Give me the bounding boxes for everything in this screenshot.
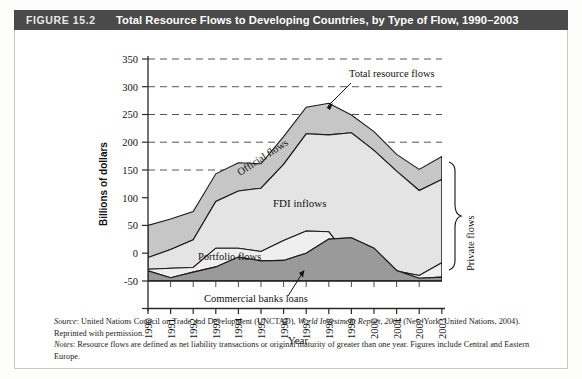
y-axis-title: Billions of dollars: [98, 142, 109, 226]
annotation-commercial-banks-loans: Commercial banks loans: [204, 293, 308, 304]
stacked-areas: [148, 103, 442, 281]
source-line: Source: United Nations Council on Trade …: [54, 316, 534, 339]
x-axis-ticks: [148, 309, 442, 315]
figure-header-bar: FIGURE 15.2 Total Resource Flows to Deve…: [14, 10, 568, 30]
notes-line: Notes: Resource flows are defined as net…: [54, 339, 534, 362]
y-tick-label: 350: [122, 56, 138, 65]
annotation-private-flows: Private flows: [465, 215, 476, 271]
y-tick-label: 100: [122, 193, 138, 204]
y-tick-label: -50: [124, 276, 138, 287]
figure-number: FIGURE 15.2: [14, 14, 100, 26]
y-tick-label: 250: [122, 109, 138, 120]
annotation-fdi-inflows: FDI inflows: [273, 197, 326, 209]
figure-container: FIGURE 15.2 Total Resource Flows to Deve…: [0, 0, 582, 379]
annotation-portfolio-flows: Portfolio flows: [198, 251, 261, 262]
y-axis-tick-labels: 350 300 250 200 150 100 50 0 -50: [122, 56, 138, 287]
annotation-total-resource-flows: Total resource flows: [349, 68, 435, 79]
private-flows-brace: [449, 162, 461, 270]
source-label: Source: [54, 317, 77, 326]
figure-title: Total Resource Flows to Developing Count…: [100, 14, 519, 26]
y-tick-label: 50: [128, 220, 139, 231]
notes-text: : Resource flows are defined as net liab…: [54, 340, 529, 361]
figure-notes: Source: United Nations Council on Trade …: [54, 316, 534, 362]
notes-label: Notes: [54, 340, 73, 349]
y-tick-label: 200: [122, 137, 138, 148]
source-title: World Investment Report, 2004: [298, 317, 401, 326]
zero-line-minor-ticks: [171, 281, 420, 287]
source-text-1: : United Nations Council on Trade and De…: [77, 317, 298, 326]
y-tick-label: 150: [122, 165, 138, 176]
area-chart: 350 300 250 200 150 100 50 0 -50: [15, 56, 569, 346]
y-tick-label: 300: [122, 82, 138, 93]
y-axis-ticks: [142, 59, 148, 309]
y-tick-label: 0: [133, 248, 138, 259]
